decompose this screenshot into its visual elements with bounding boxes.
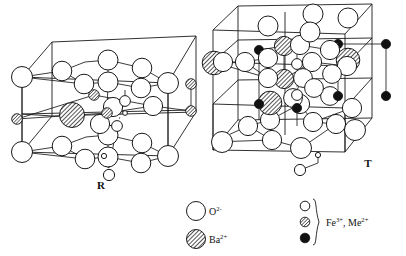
atom-oxygen xyxy=(238,116,257,135)
atom-oxygen-small xyxy=(120,96,131,107)
atom-iron-filled xyxy=(254,99,263,108)
r-block-group: R xyxy=(12,36,197,191)
atom-oxygen xyxy=(258,16,278,36)
atom-oxygen xyxy=(98,72,118,92)
atom-oxygen xyxy=(131,153,151,173)
atom-iron-hatched xyxy=(186,106,197,117)
hatched-circle-icon xyxy=(187,230,206,249)
legend-label-iron: Fe3+, Me2+ xyxy=(326,216,369,228)
atom-oxygen xyxy=(320,40,339,59)
atom-oxygen xyxy=(158,73,179,94)
atom-oxygen-small xyxy=(294,164,305,175)
atom-oxygen xyxy=(258,68,277,87)
legend-oxygen-base: O xyxy=(209,206,216,217)
t-block-oxygen-top xyxy=(258,4,358,42)
atom-oxygen xyxy=(262,130,281,149)
atom-iron-filled xyxy=(292,103,301,112)
atom-iron-hatched xyxy=(102,108,113,119)
atom-oxygen xyxy=(132,58,152,78)
atom-iron-filled xyxy=(381,91,390,100)
atom-oxygen xyxy=(212,132,233,153)
hatched-circle-icon xyxy=(300,217,310,227)
legend-item-oxygen: O2- xyxy=(187,202,222,221)
atom-oxygen xyxy=(52,61,72,81)
legend-label-barium: Ba2+ xyxy=(209,233,227,245)
open-circle-icon xyxy=(187,202,206,221)
atom-oxygen xyxy=(158,146,179,167)
atom-oxygen xyxy=(338,8,358,28)
legend-oxygen-sup: 2- xyxy=(216,205,222,212)
block-label-t: T xyxy=(364,157,372,169)
atom-oxygen-tiny xyxy=(101,153,106,158)
t-block-group: T xyxy=(202,4,390,176)
legend-item-barium: Ba2+ xyxy=(187,230,228,249)
atom-oxygen-tiny xyxy=(315,152,320,157)
atom-oxygen xyxy=(235,52,254,71)
legend-me-base: , Me xyxy=(343,217,362,228)
atom-oxygen-small xyxy=(112,121,123,132)
atom-oxygen xyxy=(326,114,345,133)
atom-oxygen-small xyxy=(292,90,303,101)
block-label-r: R xyxy=(97,179,106,191)
atom-iron-hatched xyxy=(186,79,197,90)
brace-icon xyxy=(313,199,319,245)
legend: O2- Ba2+ Fe3+, Me2+ xyxy=(187,199,369,249)
atom-oxygen xyxy=(303,112,322,131)
open-circle-icon xyxy=(300,201,310,211)
legend-barium-sup: 2+ xyxy=(220,233,227,240)
legend-me-sup: 2+ xyxy=(361,216,368,223)
atom-oxygen-small xyxy=(103,169,114,180)
t-block-oxygen-lower xyxy=(212,87,366,176)
atom-oxygen xyxy=(258,48,277,67)
atom-oxygen xyxy=(132,133,152,153)
atom-oxygen xyxy=(12,142,33,163)
atom-oxygen xyxy=(52,136,72,156)
legend-item-iron-group: Fe3+, Me2+ xyxy=(300,199,368,245)
legend-barium-base: Ba xyxy=(209,234,221,245)
atom-barium xyxy=(60,103,85,128)
atom-oxygen xyxy=(98,50,118,70)
atom-oxygen xyxy=(345,120,366,141)
legend-iron-base: Fe xyxy=(326,217,337,228)
figure-canvas: R xyxy=(0,0,406,256)
atom-iron-filled xyxy=(381,39,390,48)
atom-oxygen xyxy=(300,22,320,42)
atom-oxygen xyxy=(291,138,312,159)
atom-oxygen xyxy=(131,78,151,98)
atom-oxygen xyxy=(303,4,323,24)
atom-oxygen xyxy=(12,67,33,88)
legend-label-oxygen: O2- xyxy=(209,205,222,217)
atom-oxygen xyxy=(213,52,232,71)
atom-oxygen xyxy=(74,74,94,94)
atom-oxygen xyxy=(75,149,95,169)
atom-oxygen xyxy=(342,98,361,117)
atom-oxygen xyxy=(98,147,118,167)
atom-oxygen-tiny xyxy=(123,111,128,116)
atom-oxygen-small xyxy=(292,59,303,70)
atom-oxygen xyxy=(305,79,324,98)
filled-circle-icon xyxy=(300,233,310,243)
atom-iron-filled xyxy=(333,91,342,100)
atom-oxygen xyxy=(143,96,162,115)
atom-iron-hatched xyxy=(12,114,23,125)
atom-oxygen xyxy=(323,65,342,84)
crystal-structure-figure: R xyxy=(0,0,406,256)
